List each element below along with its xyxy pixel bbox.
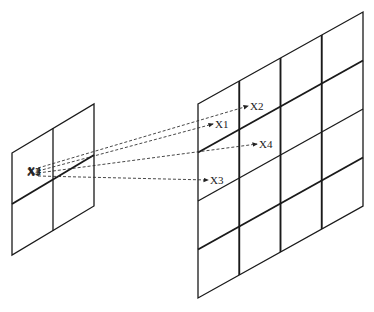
source-label-x4: X4 bbox=[28, 164, 42, 176]
source-labels: X1X2X3X4 bbox=[27, 164, 42, 178]
target-label-x4: X4 bbox=[259, 138, 273, 150]
target-label-x3: X3 bbox=[210, 174, 224, 186]
arrow-x1 bbox=[38, 124, 213, 171]
arrow-x3 bbox=[38, 176, 208, 180]
target-label-x2: X2 bbox=[250, 100, 263, 112]
target-label-x1: X1 bbox=[215, 118, 228, 130]
diagram-canvas: X1X2X3X4 X1X2X3X4 bbox=[0, 0, 374, 312]
source-grid bbox=[12, 104, 94, 255]
target-grid bbox=[198, 12, 363, 298]
mapping-arrows: X1X2X3X4 bbox=[38, 100, 273, 186]
